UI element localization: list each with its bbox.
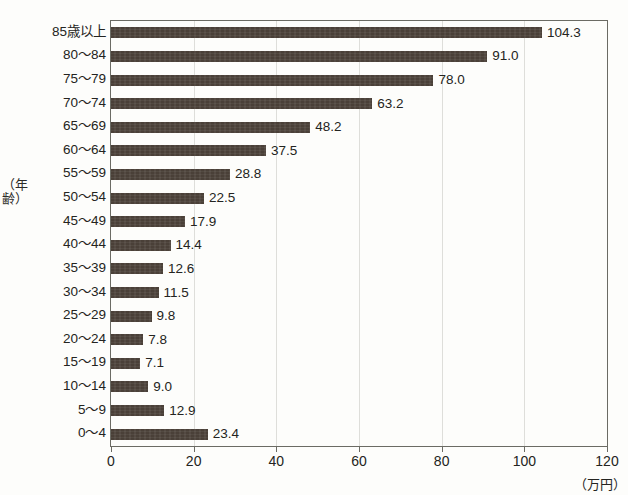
- category-label: 15〜19: [63, 355, 106, 369]
- category-label-column: 85歳以上80〜8475〜7970〜7465〜6960〜6455〜5950〜54…: [20, 20, 106, 447]
- bar-value-label: 63.2: [377, 97, 403, 111]
- x-axis-tick: [524, 447, 525, 452]
- bar: [111, 240, 171, 251]
- x-axis-tick-label: 20: [186, 453, 202, 469]
- category-label: 70〜74: [63, 96, 106, 110]
- bar: [111, 145, 266, 156]
- x-axis-tick-label: 40: [269, 453, 285, 469]
- bar: [111, 27, 542, 38]
- bar: [111, 334, 143, 345]
- bar-value-label: 17.9: [190, 215, 216, 229]
- plot-area: 104.391.078.063.248.237.528.822.517.914.…: [110, 20, 608, 447]
- bar-value-label: 7.8: [148, 333, 167, 347]
- bar-value-label: 91.0: [492, 49, 518, 63]
- category-label: 60〜64: [63, 143, 106, 157]
- x-axis-tick-label: 0: [107, 453, 115, 469]
- x-axis-tick: [442, 447, 443, 452]
- bar-value-label: 37.5: [271, 144, 297, 158]
- bar-value-label: 22.5: [209, 191, 235, 205]
- bar: [111, 122, 310, 133]
- bar: [111, 311, 152, 322]
- bar-value-label: 48.2: [315, 120, 341, 134]
- x-axis-tick: [194, 447, 195, 452]
- bar: [111, 405, 164, 416]
- category-label: 40〜44: [63, 237, 106, 251]
- category-label: 10〜14: [63, 379, 106, 393]
- x-axis-tick-label: 100: [513, 453, 536, 469]
- bar-value-label: 9.8: [157, 309, 176, 323]
- category-label: 80〜84: [63, 48, 106, 62]
- bar: [111, 358, 140, 369]
- category-label: 50〜54: [63, 190, 106, 204]
- x-axis-tick: [359, 447, 360, 452]
- bar: [111, 287, 159, 298]
- bar-value-label: 9.0: [153, 380, 172, 394]
- category-label: 55〜59: [63, 166, 106, 180]
- x-axis-tick-label: 80: [434, 453, 450, 469]
- x-axis-tick-label: 120: [595, 453, 618, 469]
- bar: [111, 98, 372, 109]
- bar: [111, 429, 208, 440]
- bar-value-label: 104.3: [547, 26, 581, 40]
- bar: [111, 75, 433, 86]
- x-axis: 020406080100120: [110, 447, 608, 477]
- category-label: 20〜24: [63, 332, 106, 346]
- bar: [111, 51, 487, 62]
- x-axis-tick: [607, 447, 608, 452]
- bar: [111, 216, 185, 227]
- category-label: 45〜49: [63, 214, 106, 228]
- category-label: 0〜4: [78, 426, 106, 440]
- category-label: 75〜79: [63, 72, 106, 86]
- bar-value-label: 11.5: [164, 286, 189, 300]
- bar: [111, 193, 204, 204]
- bar-value-label: 14.4: [176, 238, 202, 252]
- bar-value-label: 78.0: [438, 73, 464, 87]
- category-label: 85歳以上: [52, 25, 106, 39]
- category-label: 25〜29: [63, 308, 106, 322]
- category-label: 5〜9: [78, 403, 106, 417]
- category-label: 65〜69: [63, 119, 106, 133]
- bar-value-label: 12.6: [168, 262, 194, 276]
- chart-title: [210, 0, 610, 3]
- x-axis-tick-label: 60: [351, 453, 367, 469]
- bar: [111, 169, 230, 180]
- x-axis-tick: [111, 447, 112, 452]
- bar-value-label: 7.1: [145, 356, 164, 370]
- x-axis-tick: [276, 447, 277, 452]
- bar: [111, 381, 148, 392]
- gridline: [524, 21, 525, 446]
- bar-value-label: 28.8: [235, 167, 261, 181]
- category-label: 35〜39: [63, 261, 106, 275]
- bar-value-label: 23.4: [213, 427, 239, 441]
- x-axis-unit-label: （万円）: [574, 474, 626, 493]
- bar-value-label: 12.9: [169, 404, 195, 418]
- bar: [111, 263, 163, 274]
- category-label: 30〜34: [63, 285, 106, 299]
